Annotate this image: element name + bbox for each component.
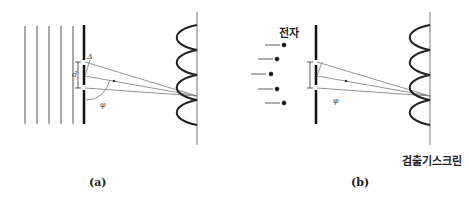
slit-separation-b	[307, 62, 313, 88]
electrons	[251, 43, 286, 105]
d-label: d	[72, 70, 77, 79]
phi-label-b: φ	[333, 96, 339, 105]
interference-pattern-a	[177, 25, 197, 125]
phi-label-a: φ	[100, 100, 106, 109]
electron-label: 전자	[279, 24, 299, 40]
caption-a: (a)	[89, 176, 107, 189]
double-slit-diagram	[0, 0, 469, 201]
screen-label: 검출기스크린	[402, 152, 462, 168]
interference-pattern-b	[410, 25, 430, 125]
wavefronts	[25, 26, 73, 124]
delta-label: Δ	[87, 52, 93, 61]
caption-b: (b)	[351, 176, 369, 189]
